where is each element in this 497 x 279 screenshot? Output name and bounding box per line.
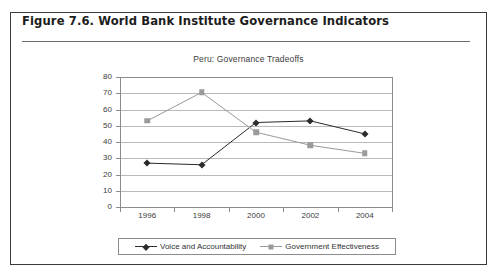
x-axis-tick-mark [174,208,175,212]
y-axis-tick-mark [116,191,120,192]
legend-label-government-effectiveness: Government Effectiveness [285,242,379,251]
y-axis-tick-mark [116,110,120,111]
y-axis-tick-label: 10 [90,187,112,195]
x-axis-tick-label: 1996 [125,212,169,220]
y-axis-tick-label: 20 [90,171,112,179]
data-point-marker [362,151,368,157]
x-axis-tick-mark [229,208,230,212]
y-axis-tick-mark [116,142,120,143]
y-axis-tick-label: 0 [90,203,112,211]
x-axis-tick-label: 2002 [288,212,332,220]
y-axis-tick-mark [116,77,120,78]
legend-item-voice-and-accountability[interactable]: Voice and Accountability [135,242,246,251]
x-axis-tick-mark [120,208,121,212]
x-axis-tick-mark [392,208,393,212]
data-point-marker [308,143,314,149]
legend-marker-diamond-icon [135,242,157,251]
x-axis-tick-mark [338,208,339,212]
data-point-marker [144,118,150,124]
y-axis-tick-label: 70 [90,89,112,97]
data-point-marker [199,90,205,96]
x-axis-tick-label: 1998 [180,212,224,220]
y-axis-tick-mark [116,126,120,127]
y-axis-tick-label: 40 [90,138,112,146]
x-axis-tick-label: 2000 [234,212,278,220]
chart-legend: Voice and Accountability Government Effe… [118,238,396,255]
y-axis-tick-label: 30 [90,154,112,162]
y-axis-tick-label: 50 [90,122,112,130]
y-axis-tick-label: 80 [90,73,112,81]
y-axis-tick-mark [116,158,120,159]
data-point-marker [253,130,259,136]
legend-item-government-effectiveness[interactable]: Government Effectiveness [260,242,379,251]
y-axis-tick-mark [116,175,120,176]
y-axis-tick-label: 60 [90,106,112,114]
x-axis-tick-mark [283,208,284,212]
x-axis-tick-label: 2004 [343,212,387,220]
legend-marker-square-icon [260,242,282,251]
y-axis-tick-mark [116,93,120,94]
legend-label-voice-and-accountability: Voice and Accountability [160,242,246,251]
series-line-voice-and-accountability [147,121,365,165]
